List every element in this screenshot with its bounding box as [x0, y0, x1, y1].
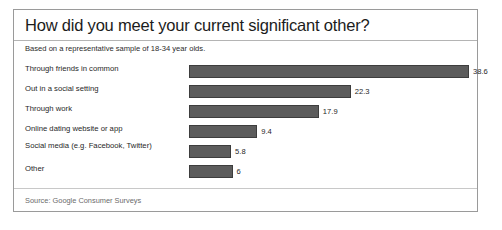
- chart-source: Source: Google Consumer Surveys: [25, 196, 141, 205]
- bar-rect: [189, 65, 469, 78]
- bar-category-label: Social media (e.g. Facebook, Twitter): [25, 141, 177, 150]
- bar-rect: [189, 145, 231, 158]
- bar-rect: [189, 125, 257, 138]
- bar-row: Social media (e.g. Facebook, Twitter) 5.…: [25, 145, 469, 158]
- bar-row: Online dating website or app 9.4: [25, 125, 469, 138]
- bar-value-label: 9.4: [261, 127, 272, 136]
- bar-category-label: Out in a social setting: [25, 84, 177, 93]
- source-divider: [14, 188, 477, 189]
- bar-rect: [189, 105, 319, 118]
- bar-category-label: Online dating website or app: [25, 124, 177, 133]
- bar-row: Out in a social setting 22.3: [25, 85, 469, 98]
- bar-track: 6: [189, 165, 469, 178]
- bar-track: 9.4: [189, 125, 469, 138]
- bar-row: Through work 17.9: [25, 105, 469, 118]
- bar-rect: [189, 85, 351, 98]
- title-divider: [14, 40, 477, 41]
- chart-title: How did you meet your current significan…: [25, 16, 369, 35]
- bar-value-label: 38.6: [473, 67, 488, 76]
- bar-value-label: 6: [237, 167, 241, 176]
- bar-track: 38.6: [189, 65, 469, 78]
- bar-track: 17.9: [189, 105, 469, 118]
- bar-value-label: 17.9: [323, 107, 338, 116]
- chart-subtitle: Based on a representative sample of 18-3…: [25, 44, 205, 53]
- bar-row: Other 6: [25, 165, 469, 178]
- chart-frame: How did you meet your current significan…: [13, 9, 478, 212]
- bar-track: 22.3: [189, 85, 469, 98]
- bar-row: Through friends in common 38.6: [25, 65, 469, 78]
- bar-category-label: Other: [25, 164, 177, 173]
- bar-chart-plot-area: Through friends in common 38.6 Out in a …: [25, 65, 469, 183]
- bar-value-label: 5.8: [235, 147, 246, 156]
- bar-category-label: Through work: [25, 104, 177, 113]
- bar-rect: [189, 165, 233, 178]
- bar-value-label: 22.3: [355, 87, 370, 96]
- bar-track: 5.8: [189, 145, 469, 158]
- bar-category-label: Through friends in common: [25, 64, 177, 73]
